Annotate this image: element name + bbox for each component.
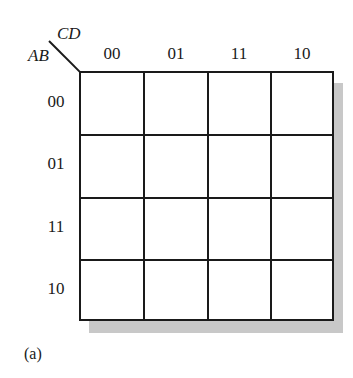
col-label-10: 10: [270, 44, 334, 64]
kmap-grid: [79, 71, 334, 321]
row-label-10: 10: [40, 279, 72, 299]
row-variables-label: AB: [28, 46, 49, 66]
col-label-11: 11: [207, 44, 271, 64]
corner-diagonal-line: [48, 40, 81, 73]
grid-divider: [143, 73, 145, 319]
grid-divider: [81, 134, 332, 136]
grid-divider: [81, 259, 332, 261]
col-label-00: 00: [80, 44, 144, 64]
col-variables-label: CD: [57, 24, 81, 44]
grid-divider: [270, 73, 272, 319]
grid-divider: [207, 73, 209, 319]
grid-divider: [81, 197, 332, 199]
grid-shadow-bottom: [89, 321, 343, 333]
row-label-11: 11: [40, 217, 72, 237]
figure-caption: (a): [24, 345, 42, 363]
row-label-01: 01: [40, 154, 72, 174]
row-label-00: 00: [40, 92, 72, 112]
col-label-01: 01: [144, 44, 208, 64]
grid-shadow-right: [334, 83, 343, 333]
